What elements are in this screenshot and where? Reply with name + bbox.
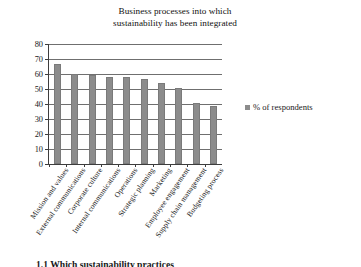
bar [158,83,165,164]
bar-slot [118,44,135,164]
bar-slot [84,44,101,164]
bar [106,77,113,164]
bar [71,74,78,164]
bar [175,88,182,164]
y-tick-label-60: 60 [35,70,43,79]
y-tick-label-20: 20 [35,130,43,139]
y-tick-label-50: 50 [35,85,43,94]
legend-label: % of respondents [253,102,313,112]
bar [54,64,61,165]
chart-legend: % of respondents [245,102,313,112]
chart-title-line-1: Business processes into which [60,6,290,18]
figure-caption: 1.1 Which sustainability practices [36,259,336,267]
bar-slot [66,44,83,164]
bar-slot [170,44,187,164]
y-tick-label-30: 30 [35,115,43,124]
y-tick-label-40: 40 [35,100,43,109]
chart-figure: Business processes into which sustainabi… [0,0,361,267]
y-tick-label-0: 0 [39,160,43,169]
bar [123,77,130,164]
x-axis-labels: Mission and valuesExternal communication… [48,166,222,262]
chart-title: Business processes into which sustainabi… [60,6,290,29]
y-tick-label-10: 10 [35,145,43,154]
bar-slot [135,44,152,164]
bar-slot [49,44,66,164]
y-tick-label-80: 80 [35,40,43,49]
bar [210,106,217,165]
bar-series [49,44,222,164]
bar-slot [101,44,118,164]
plot-area: 80 70 60 50 40 30 20 [48,44,222,164]
bar [89,75,96,164]
bar-slot [187,44,204,164]
chart-title-line-2: sustainability has been integrated [60,18,290,30]
bar [141,79,148,165]
bar-slot [153,44,170,164]
y-tick-label-70: 70 [35,55,43,64]
bar [193,103,200,165]
bar-slot [205,44,222,164]
legend-swatch-icon [245,105,250,110]
